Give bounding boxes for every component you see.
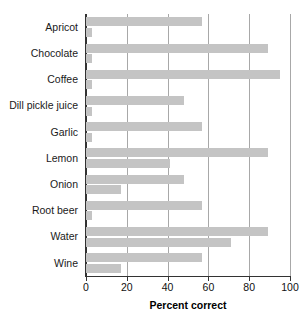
x-tick-label-40: 40 [162, 282, 174, 293]
y-axis-label-wine: Wine [0, 250, 82, 276]
bar [86, 122, 202, 131]
y-axis-label-water: Water [0, 224, 82, 250]
bar-group [86, 171, 290, 197]
bar [86, 201, 202, 210]
bar [86, 54, 92, 63]
bar-group [86, 224, 290, 250]
y-axis-label-coffee: Coffee [0, 66, 82, 92]
bar-group [86, 66, 290, 92]
bar [86, 148, 268, 157]
bar [86, 227, 268, 236]
y-axis-label-lemon: Lemon [0, 145, 82, 171]
bar [86, 253, 202, 262]
bar-group [86, 14, 290, 40]
bar-group [86, 119, 290, 145]
bar [86, 238, 231, 247]
x-tick-label-60: 60 [203, 282, 215, 293]
x-tick-label-100: 100 [281, 282, 299, 293]
x-tick-label-80: 80 [243, 282, 255, 293]
bar [86, 264, 121, 273]
bar [86, 159, 170, 168]
y-axis-label-dill-pickle-juice: Dill pickle juice [0, 93, 82, 119]
x-tick-label-20: 20 [121, 282, 133, 293]
bar [86, 17, 202, 26]
bar [86, 211, 92, 220]
plot-area [86, 14, 290, 276]
bar [86, 44, 268, 53]
bar [86, 185, 121, 194]
x-tick-label-0: 0 [83, 282, 89, 293]
bar-groups [86, 14, 290, 276]
y-axis-label-apricot: Apricot [0, 14, 82, 40]
x-axis-tick-labels: 020406080100 [86, 282, 290, 296]
bar [86, 28, 92, 37]
y-axis-label-onion: Onion [0, 171, 82, 197]
bar [86, 107, 92, 116]
bar [86, 175, 184, 184]
y-axis-label-garlic: Garlic [0, 119, 82, 145]
y-axis-label-chocolate: Chocolate [0, 40, 82, 66]
y-axis-category-labels: Apricot Chocolate Coffee Dill pickle jui… [0, 14, 82, 276]
bar [86, 133, 92, 142]
y-axis-label-root-beer: Root beer [0, 197, 82, 223]
bar [86, 96, 184, 105]
gridline-100 [290, 14, 291, 276]
bar-group [86, 250, 290, 276]
bar-group [86, 93, 290, 119]
x-axis-ticks [86, 276, 290, 281]
bar [86, 70, 280, 79]
bar-chart: Apricot Chocolate Coffee Dill pickle jui… [0, 0, 303, 327]
x-axis-title: Percent correct [86, 299, 290, 311]
bar-group [86, 145, 290, 171]
bar-group [86, 197, 290, 223]
bar [86, 80, 92, 89]
bar-group [86, 40, 290, 66]
